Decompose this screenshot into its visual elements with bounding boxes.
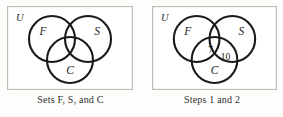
caption-right-text: Steps 1 and 2 <box>184 94 240 105</box>
universe-rectangle <box>153 7 277 90</box>
universe-rectangle <box>8 7 133 90</box>
caption-left: Sets F, S, and C <box>0 94 141 105</box>
universe-box-right: U F S C 7 10 <box>152 6 277 90</box>
set-label-f: F <box>38 25 47 37</box>
region-count-s-and-c: 10 <box>221 52 231 62</box>
universe-box-left: U F S C <box>7 6 133 90</box>
region-count-f-and-s: 7 <box>208 45 213 55</box>
venn-panel-right: U F S C 7 10 Steps 1 and 2 <box>141 0 283 117</box>
venn-panel-left: U F S C Sets F, S, and C <box>0 0 141 117</box>
set-label-s: S <box>238 25 244 37</box>
set-label-s: S <box>94 25 100 37</box>
caption-left-text: Sets F, S, and C <box>37 94 103 105</box>
caption-right: Steps 1 and 2 <box>141 94 283 105</box>
venn-svg-left: U F S C <box>7 6 133 90</box>
venn-svg-right: U F S C 7 10 <box>152 6 277 90</box>
venn-diagram-figure: U F S C Sets F, S, and C U F S C 7 10 <box>0 0 283 117</box>
set-label-c: C <box>66 64 74 76</box>
set-label-c: C <box>211 64 219 76</box>
set-label-f: F <box>183 25 192 37</box>
